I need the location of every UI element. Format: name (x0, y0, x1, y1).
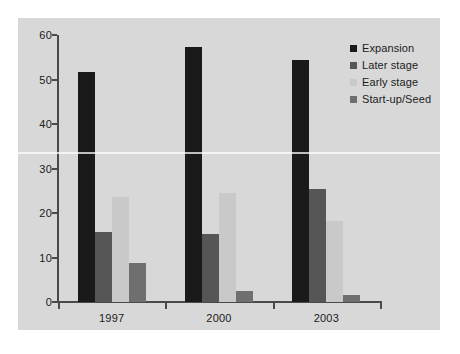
bar-early-stage-2000 (219, 193, 236, 302)
bar-start-up-seed-2003 (343, 295, 360, 302)
bar-later-stage-2003 (309, 189, 326, 302)
legend-item: Start-up/Seed (350, 92, 431, 106)
y-axis-tick-mark (52, 168, 57, 170)
legend-item: Later stage (350, 58, 431, 72)
bar-early-stage-1997 (112, 197, 129, 302)
x-axis-category-label: 1997 (99, 312, 124, 324)
legend-label: Later stage (362, 59, 418, 71)
y-axis-tick-label: 20 (20, 207, 52, 219)
bar-start-up-seed-2000 (236, 291, 253, 302)
y-axis-tick-label: 0 (20, 296, 52, 308)
legend-swatch-icon (350, 79, 357, 86)
x-axis-tick-mark (273, 303, 275, 309)
bar-chart-figure: 0102030405060 199720002003 ExpansionLate… (0, 0, 460, 354)
legend-item: Early stage (350, 75, 431, 89)
y-axis-tick-label: 30 (20, 163, 52, 175)
bar-expansion-2003 (292, 60, 309, 302)
chart-legend: ExpansionLater stageEarly stageStart-up/… (350, 41, 431, 106)
legend-label: Start-up/Seed (362, 93, 431, 105)
y-axis-tick-label: 50 (20, 74, 52, 86)
x-axis-category-label: 2000 (206, 312, 231, 324)
legend-label: Early stage (362, 76, 418, 88)
y-axis-tick-mark (52, 79, 57, 81)
y-axis-tick-mark (52, 34, 57, 36)
legend-item: Expansion (350, 41, 431, 55)
bar-early-stage-2003 (326, 221, 343, 302)
x-axis-tick-mark (165, 303, 167, 309)
bar-start-up-seed-1997 (129, 263, 146, 302)
y-axis-tick-label: 60 (20, 29, 52, 41)
y-axis-tick-label: 40 (20, 118, 52, 130)
legend-swatch-icon (350, 96, 357, 103)
x-axis-tick-mark (380, 303, 382, 309)
plot-area (58, 35, 380, 302)
x-axis-tick-mark (58, 303, 60, 309)
y-axis-tick-mark (52, 212, 57, 214)
y-axis-tick-mark (52, 123, 57, 125)
y-axis-tick-mark (52, 257, 57, 259)
bar-expansion-1997 (78, 72, 95, 303)
bar-later-stage-1997 (95, 232, 112, 302)
legend-swatch-icon (350, 62, 357, 69)
bar-expansion-2000 (185, 47, 202, 302)
y-axis-tick-label: 10 (20, 252, 52, 264)
x-axis-category-label: 2003 (314, 312, 339, 324)
y-axis-tick-mark (52, 301, 57, 303)
bar-later-stage-2000 (202, 234, 219, 302)
legend-swatch-icon (350, 45, 357, 52)
legend-label: Expansion (362, 42, 414, 54)
